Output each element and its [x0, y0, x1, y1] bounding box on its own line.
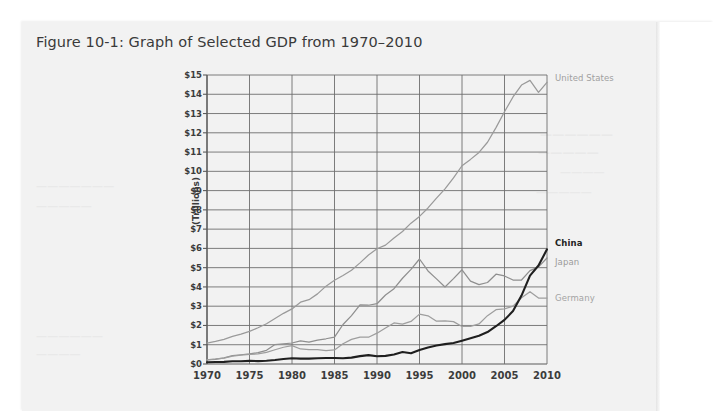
x-axis-tick-label: 1995	[400, 370, 440, 381]
x-axis-tick-label: 1985	[315, 370, 355, 381]
x-axis-tick-label: 2000	[442, 370, 482, 381]
x-axis-tick-label: 2005	[485, 370, 525, 381]
series-label-germany: Germany	[555, 293, 595, 303]
series-label-united-states: United States	[555, 73, 614, 83]
scanned-page: —————— ————— ———— ————— ——————— ————— ——…	[0, 0, 713, 411]
gdp-line-chart	[0, 0, 713, 411]
x-axis-tick-label: 1975	[230, 370, 270, 381]
x-axis-tick-label: 1970	[187, 370, 227, 381]
series-label-china: China	[555, 238, 583, 248]
x-axis-tick-label: 2010	[527, 370, 567, 381]
x-axis-tick-label: 1980	[272, 370, 312, 381]
x-axis-tick-label: 1990	[357, 370, 397, 381]
series-label-japan: Japan	[555, 257, 579, 267]
plot-svg	[0, 0, 713, 411]
